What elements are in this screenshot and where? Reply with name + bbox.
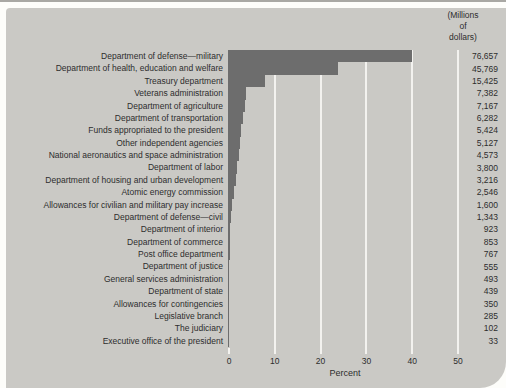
bar-track xyxy=(228,260,464,272)
bar-track xyxy=(228,211,464,223)
chart-row: Legislative branch285 xyxy=(6,310,506,322)
chart-row: Department of agriculture7,167 xyxy=(6,100,506,112)
bar-track xyxy=(228,322,464,334)
chart-row: The judiciary102 xyxy=(6,322,506,334)
x-tick-label: 20 xyxy=(311,356,331,366)
value-label: 1,600 xyxy=(464,200,506,210)
bar xyxy=(228,211,231,223)
category-label: Allowances for contingencies xyxy=(6,298,228,310)
chart-row: Other independent agencies5,127 xyxy=(6,137,506,149)
bar xyxy=(228,100,245,112)
chart-row: Department of justice555 xyxy=(6,260,506,272)
chart-row: Atomic energy commission2,546 xyxy=(6,186,506,198)
bar-track xyxy=(228,273,464,285)
bar-track xyxy=(228,174,464,186)
category-label: General services administration xyxy=(6,273,228,285)
value-label: 3,800 xyxy=(464,163,506,173)
chart-row: Allowances for contingencies350 xyxy=(6,298,506,310)
x-tick-mark xyxy=(457,348,459,354)
x-tick-mark xyxy=(320,348,322,354)
category-label: Legislative branch xyxy=(6,310,228,322)
chart-row: General services administration493 xyxy=(6,273,506,285)
category-label: Department of defense—civil xyxy=(6,211,228,223)
page-edge xyxy=(0,0,506,2)
bar-track xyxy=(228,137,464,149)
x-tick-mark xyxy=(411,348,413,354)
category-label: Department of labor xyxy=(6,161,228,173)
x-tick-mark xyxy=(365,348,367,354)
value-label: 285 xyxy=(464,311,506,321)
value-label: 5,127 xyxy=(464,138,506,148)
category-label: Veterans administration xyxy=(6,87,228,99)
value-label: 2,546 xyxy=(464,187,506,197)
category-label: Department of agriculture xyxy=(6,100,228,112)
x-tick-label: 40 xyxy=(402,356,422,366)
bar-track xyxy=(228,248,464,260)
chart-row: Department of transportation6,282 xyxy=(6,112,506,124)
bar xyxy=(228,87,246,99)
x-tick-label: 50 xyxy=(448,356,468,366)
bar-track xyxy=(228,75,464,87)
chart-panel: (Millions of dollars) 01020304050 Depart… xyxy=(6,8,506,388)
bar xyxy=(228,285,229,297)
scanned-chart-page: (Millions of dollars) 01020304050 Depart… xyxy=(0,0,506,388)
bar xyxy=(228,223,230,235)
value-label: 853 xyxy=(464,237,506,247)
chart-row: Department of state439 xyxy=(6,285,506,297)
chart-row: Allowances for civilian and military pay… xyxy=(6,199,506,211)
value-label: 33 xyxy=(464,336,506,346)
chart-row: National aeronautics and space administr… xyxy=(6,149,506,161)
bar-track xyxy=(228,335,464,347)
chart-row: Department of defense—civil1,343 xyxy=(6,211,506,223)
bar-track xyxy=(228,87,464,99)
category-label: Funds appropriated to the president xyxy=(6,124,228,136)
bar xyxy=(228,149,239,161)
category-label: Executive office of the president xyxy=(6,335,228,347)
bar-track xyxy=(228,100,464,112)
value-label: 5,424 xyxy=(464,125,506,135)
bar xyxy=(228,273,229,285)
value-label: 15,425 xyxy=(464,76,506,86)
bar-track xyxy=(228,186,464,198)
category-label: Department of state xyxy=(6,285,228,297)
bar xyxy=(228,50,412,62)
chart-row: Veterans administration7,382 xyxy=(6,87,506,99)
bar xyxy=(228,161,237,173)
bar xyxy=(228,112,243,124)
bar xyxy=(228,260,229,272)
chart-row: Department of housing and urban developm… xyxy=(6,174,506,186)
value-label: 7,167 xyxy=(464,101,506,111)
bar-track xyxy=(228,285,464,297)
category-label: Department of commerce xyxy=(6,236,228,248)
bar-track xyxy=(228,62,464,74)
value-label: 6,282 xyxy=(464,113,506,123)
x-tick-mark xyxy=(274,348,276,354)
category-label: Post office department xyxy=(6,248,228,260)
bar-track xyxy=(228,199,464,211)
chart-row: Post office department767 xyxy=(6,248,506,260)
chart-row: Department of defense—military76,657 xyxy=(6,50,506,62)
bar-track xyxy=(228,223,464,235)
value-label: 923 xyxy=(464,224,506,234)
x-tick-label: 30 xyxy=(356,356,376,366)
bar xyxy=(228,236,230,248)
category-label: Department of transportation xyxy=(6,112,228,124)
chart-row: Funds appropriated to the president5,424 xyxy=(6,124,506,136)
bar-chart: Department of defense—military76,657Depa… xyxy=(6,50,506,347)
value-label: 1,343 xyxy=(464,212,506,222)
value-label: 767 xyxy=(464,249,506,259)
x-tick-mark xyxy=(228,348,230,354)
chart-row: Department of labor3,800 xyxy=(6,161,506,173)
bar xyxy=(228,310,229,322)
chart-row: Department of commerce853 xyxy=(6,236,506,248)
value-label: 439 xyxy=(464,286,506,296)
chart-row: Department of interior923 xyxy=(6,223,506,235)
x-axis-title: Percent xyxy=(300,368,390,378)
bar xyxy=(228,75,265,87)
bar-track xyxy=(228,50,464,62)
category-label: Department of housing and urban developm… xyxy=(6,174,228,186)
bar xyxy=(228,62,338,74)
bar xyxy=(228,137,240,149)
bar-track xyxy=(228,112,464,124)
value-label: 493 xyxy=(464,274,506,284)
